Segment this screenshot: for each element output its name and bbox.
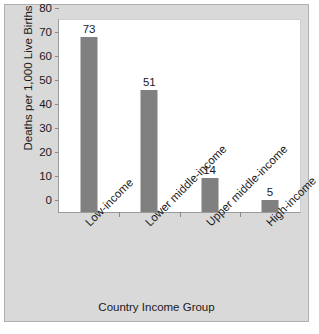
bar[interactable] bbox=[141, 90, 158, 212]
y-axis-tick: 40 bbox=[32, 98, 59, 110]
y-axis-tick-label: 80 bbox=[32, 2, 52, 14]
bar-value-label: 5 bbox=[267, 186, 273, 198]
y-axis-tick: 60 bbox=[32, 50, 59, 62]
y-axis-tick-label: 20 bbox=[32, 146, 52, 158]
y-axis-tick-label: 60 bbox=[32, 50, 52, 62]
chart-figure: Deaths per 1,000 Live Births 01020304050… bbox=[4, 4, 309, 322]
x-axis-tick-mark bbox=[240, 212, 241, 217]
x-axis-title: Country Income Group bbox=[5, 301, 308, 313]
y-axis-tick: 50 bbox=[32, 74, 59, 86]
x-axis-tick-mark bbox=[180, 212, 181, 217]
y-axis-tick-label: 30 bbox=[32, 122, 52, 134]
bar-value-label: 51 bbox=[143, 76, 156, 88]
y-axis-tick-label: 10 bbox=[32, 170, 52, 182]
x-axis-tick-mark bbox=[119, 212, 120, 217]
y-axis-tick-label: 40 bbox=[32, 98, 52, 110]
bar-slot: 73 bbox=[59, 20, 119, 212]
y-axis-tick-label: 0 bbox=[32, 194, 52, 206]
y-axis-tick-mark bbox=[55, 8, 59, 9]
y-axis-tick: 0 bbox=[32, 194, 59, 206]
plot-area: 01020304050607080 7351145 Low-incomeLowe… bbox=[58, 19, 301, 213]
bar-value-label: 73 bbox=[83, 23, 96, 35]
y-axis-tick: 20 bbox=[32, 146, 59, 158]
y-axis-tick: 80 bbox=[32, 2, 59, 14]
y-axis-tick-label: 70 bbox=[32, 26, 52, 38]
y-axis-tick-label: 50 bbox=[32, 74, 52, 86]
y-axis-tick: 70 bbox=[32, 26, 59, 38]
y-axis-tick: 30 bbox=[32, 122, 59, 134]
bar[interactable] bbox=[81, 37, 98, 212]
y-axis-tick: 10 bbox=[32, 170, 59, 182]
